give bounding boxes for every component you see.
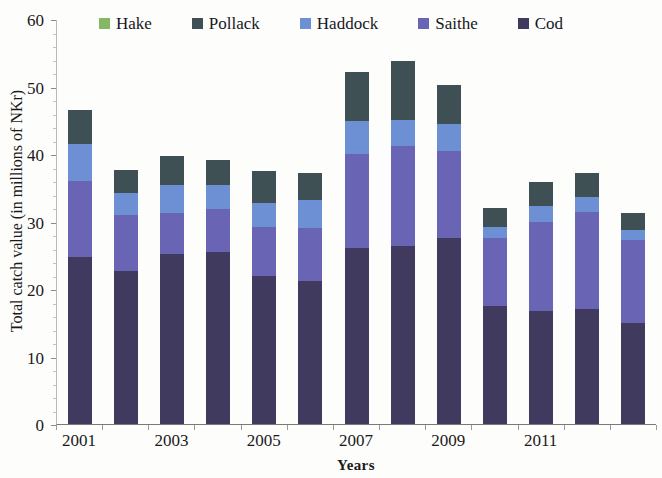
- bar-slot: [426, 20, 472, 424]
- x-axis-tick-mark: [287, 425, 288, 430]
- bar-segment-cod[interactable]: [391, 246, 415, 424]
- bar-segment-pollack[interactable]: [621, 213, 645, 230]
- bar-segment-pollack[interactable]: [437, 85, 461, 123]
- bar-segment-pollack[interactable]: [68, 110, 92, 144]
- bar-slot: [472, 20, 518, 424]
- x-axis-tick-label: 2007: [339, 432, 373, 450]
- bar-slot: [518, 20, 564, 424]
- stacked-bar-2011[interactable]: [529, 182, 553, 424]
- bar-slot: [195, 20, 241, 424]
- x-axis-tick-mark: [379, 425, 380, 430]
- bar-segment-haddock[interactable]: [160, 185, 184, 213]
- stacked-bar-2013[interactable]: [621, 213, 645, 424]
- bar-slot: [57, 20, 103, 424]
- bar-segment-cod[interactable]: [160, 254, 184, 424]
- x-axis-tick-label: 2005: [247, 432, 281, 450]
- bar-segment-cod[interactable]: [298, 281, 322, 424]
- bar-segment-pollack[interactable]: [391, 61, 415, 120]
- bar-segment-cod[interactable]: [252, 276, 276, 425]
- bar-segment-saithe[interactable]: [68, 181, 92, 257]
- bar-segment-saithe[interactable]: [621, 240, 645, 323]
- bar-segment-haddock[interactable]: [621, 230, 645, 240]
- x-axis-tick-mark: [102, 425, 103, 430]
- bar-segment-pollack[interactable]: [206, 160, 230, 185]
- bar-segment-saithe[interactable]: [437, 151, 461, 239]
- bar-segment-haddock[interactable]: [68, 144, 92, 181]
- bar-segment-haddock[interactable]: [391, 120, 415, 146]
- stacked-bar-2007[interactable]: [345, 72, 369, 424]
- bar-group: [57, 20, 656, 424]
- bar-segment-cod[interactable]: [529, 311, 553, 424]
- stacked-bar-chart: HakePollackHaddockSaitheCod 010203040506…: [0, 0, 662, 478]
- bar-slot: [103, 20, 149, 424]
- bar-slot: [380, 20, 426, 424]
- bar-segment-pollack[interactable]: [298, 173, 322, 200]
- y-axis-tick-label: 20: [27, 282, 44, 299]
- bar-segment-saithe[interactable]: [206, 209, 230, 252]
- x-axis-tick-mark: [471, 425, 472, 430]
- x-axis-title: Years: [56, 457, 656, 474]
- bar-segment-saithe[interactable]: [575, 212, 599, 309]
- x-axis-tick-mark: [564, 425, 565, 430]
- y-axis-tick-label: 30: [27, 215, 44, 232]
- bar-segment-saithe[interactable]: [483, 238, 507, 306]
- bar-segment-haddock[interactable]: [298, 200, 322, 228]
- bar-segment-pollack[interactable]: [483, 208, 507, 227]
- bar-segment-pollack[interactable]: [252, 171, 276, 203]
- stacked-bar-2012[interactable]: [575, 173, 599, 424]
- bar-segment-haddock[interactable]: [483, 227, 507, 238]
- bar-segment-cod[interactable]: [345, 248, 369, 424]
- stacked-bar-2009[interactable]: [437, 85, 461, 424]
- bar-segment-pollack[interactable]: [529, 182, 553, 206]
- x-axis-tick-mark: [518, 425, 519, 430]
- stacked-bar-2001[interactable]: [68, 110, 92, 424]
- stacked-bar-2010[interactable]: [483, 208, 507, 424]
- x-axis-tick-label: 2001: [62, 432, 96, 450]
- stacked-bar-2002[interactable]: [114, 170, 138, 424]
- x-axis-tick-labels: 200120032005200720092011: [56, 432, 656, 456]
- bar-segment-haddock[interactable]: [345, 121, 369, 154]
- bar-segment-haddock[interactable]: [206, 185, 230, 209]
- bar-slot: [241, 20, 287, 424]
- stacked-bar-2004[interactable]: [206, 160, 230, 424]
- bar-segment-haddock[interactable]: [252, 203, 276, 227]
- bar-segment-saithe[interactable]: [391, 146, 415, 246]
- stacked-bar-2006[interactable]: [298, 173, 322, 424]
- bar-segment-pollack[interactable]: [114, 170, 138, 194]
- y-axis-tick-label: 40: [27, 147, 44, 164]
- bar-segment-saithe[interactable]: [160, 213, 184, 254]
- bar-segment-cod[interactable]: [621, 323, 645, 424]
- bar-segment-saithe[interactable]: [529, 222, 553, 311]
- x-axis-tick-mark: [425, 425, 426, 430]
- bar-segment-saithe[interactable]: [298, 228, 322, 281]
- bar-segment-haddock[interactable]: [575, 197, 599, 212]
- stacked-bar-2003[interactable]: [160, 156, 184, 424]
- bar-segment-cod[interactable]: [68, 257, 92, 424]
- y-axis-tick-label: 60: [27, 12, 44, 29]
- bar-segment-haddock[interactable]: [437, 124, 461, 151]
- bar-segment-cod[interactable]: [437, 238, 461, 424]
- bar-segment-haddock[interactable]: [114, 193, 138, 215]
- bar-segment-cod[interactable]: [575, 309, 599, 424]
- stacked-bar-2008[interactable]: [391, 61, 415, 424]
- bar-slot: [333, 20, 379, 424]
- bar-segment-pollack[interactable]: [575, 173, 599, 197]
- stacked-bar-2005[interactable]: [252, 171, 276, 424]
- bar-segment-pollack[interactable]: [345, 72, 369, 121]
- x-axis-tick-label: 2009: [431, 432, 465, 450]
- bar-segment-saithe[interactable]: [114, 215, 138, 272]
- bar-slot: [610, 20, 656, 424]
- x-axis-tick-mark: [56, 425, 57, 430]
- bar-segment-cod[interactable]: [206, 252, 230, 424]
- bar-segment-saithe[interactable]: [345, 154, 369, 248]
- bar-slot: [564, 20, 610, 424]
- bar-segment-haddock[interactable]: [529, 206, 553, 222]
- x-axis-tick-label: 2003: [154, 432, 188, 450]
- bar-segment-cod[interactable]: [114, 271, 138, 424]
- x-axis-tick-label: 2011: [524, 432, 557, 450]
- bar-segment-saithe[interactable]: [252, 227, 276, 276]
- bar-segment-cod[interactable]: [483, 306, 507, 424]
- bar-segment-pollack[interactable]: [160, 156, 184, 185]
- plot-area: [56, 20, 656, 425]
- x-axis-tick-mark: [333, 425, 334, 430]
